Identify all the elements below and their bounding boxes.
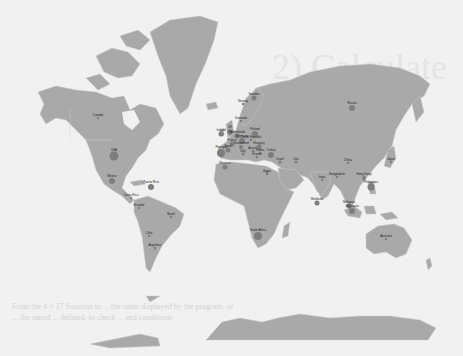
marker-label: Brazil (167, 212, 175, 216)
map-marker[interactable]: Puerto Rico (143, 180, 159, 190)
marker-label: Netherlands (229, 130, 246, 134)
marker-label: Russia (347, 101, 357, 105)
marker-label: Iran (293, 157, 299, 161)
land-iceland (206, 102, 218, 110)
marker-label: Puerto Rico (143, 180, 159, 184)
marker-label: Ireland (216, 128, 226, 132)
marker-label: Australia (380, 234, 392, 238)
marker-label: Canada (93, 113, 104, 117)
marker-bubble[interactable] (148, 235, 150, 237)
marker-bubble[interactable] (321, 179, 323, 181)
marker-bubble[interactable] (349, 105, 355, 111)
marker-label: South Africa (250, 228, 267, 232)
marker-bubble[interactable] (349, 208, 355, 214)
land-new-zealand (426, 258, 432, 270)
marker-label: Czech Republic (240, 135, 262, 139)
land-greenland (150, 16, 218, 114)
marker-bubble[interactable] (347, 162, 349, 164)
marker-label: Hungary (253, 141, 265, 145)
marker-bubble[interactable] (97, 117, 99, 119)
marker-label: Switzerland (233, 141, 249, 145)
marker-label: Poland (250, 127, 260, 131)
land-north-america (38, 86, 164, 204)
marker-label: Maldives (311, 197, 323, 201)
marker-label: Italy (240, 149, 246, 153)
marker-label: India (319, 175, 326, 179)
marker-bubble[interactable] (315, 201, 320, 206)
marker-label: Chile (146, 231, 153, 235)
marker-label: Philippines (364, 180, 379, 184)
marker-bubble[interactable] (154, 247, 156, 249)
marker-label: China (344, 158, 352, 162)
marker-label: Mexico (107, 174, 117, 178)
marker-bubble[interactable] (219, 132, 224, 137)
world-map[interactable]: CanadaUSAMexicoCosta RicaPuerto RicoEcua… (0, 0, 463, 356)
land-antarctica (90, 296, 436, 348)
marker-bubble[interactable] (242, 103, 244, 105)
marker-label: Sweden (249, 92, 260, 96)
marker-bubble[interactable] (130, 197, 132, 199)
marker-label: Greece (252, 152, 262, 156)
map-marker[interactable]: Philippines (364, 180, 379, 191)
map-marker[interactable]: Maldives (311, 197, 323, 206)
marker-bubble[interactable] (250, 139, 252, 141)
marker-bubble[interactable] (368, 184, 375, 191)
marker-label: Israel (276, 157, 284, 161)
marker-bubble[interactable] (385, 238, 387, 240)
marker-label: Japan (387, 157, 396, 161)
land-australia (366, 224, 412, 258)
marker-label: Costa Rica (124, 193, 139, 197)
marker-label: USA (111, 148, 117, 152)
marker-bubble[interactable] (252, 96, 257, 101)
marker-label: Malaysia (343, 200, 355, 204)
marker-bubble[interactable] (226, 148, 231, 153)
marker-bubble[interactable] (336, 176, 338, 178)
marker-bubble[interactable] (223, 165, 228, 170)
land-madagascar (282, 222, 290, 238)
marker-bubble[interactable] (242, 153, 245, 156)
marker-bubble[interactable] (138, 207, 140, 209)
marker-label: Singapore (345, 204, 359, 208)
marker-label: Norway (238, 99, 249, 103)
marker-bubble[interactable] (217, 149, 225, 157)
marker-bubble[interactable] (295, 161, 298, 164)
marker-bubble[interactable] (109, 178, 115, 184)
marker-label: France (227, 138, 237, 142)
marker-label: Hong Kong (356, 172, 371, 176)
marker-bubble[interactable] (148, 184, 154, 190)
map-marker[interactable]: Ireland (216, 128, 226, 137)
marker-bubble[interactable] (268, 152, 274, 158)
marker-bubble[interactable] (110, 152, 119, 161)
marker-bubble[interactable] (256, 156, 258, 158)
marker-label: Morocco (219, 161, 231, 165)
marker-bubble[interactable] (254, 232, 262, 240)
marker-bubble[interactable] (279, 161, 282, 164)
land-south-america (134, 196, 184, 272)
land-arctic-islands (86, 30, 150, 90)
marker-label: Bangladesh (329, 172, 345, 176)
marker-label: Egypt (263, 169, 271, 173)
marker-bubble[interactable] (170, 216, 172, 218)
marker-bubble[interactable] (266, 173, 268, 175)
marker-label: Argentina (149, 243, 162, 247)
marker-label: Turkey (266, 148, 276, 152)
marker-label: Ecuador (133, 203, 144, 207)
marker-bubble[interactable] (240, 120, 242, 122)
marker-label: Spain (224, 144, 232, 148)
marker-label: Denmark (235, 116, 248, 120)
marker-bubble[interactable] (390, 161, 392, 163)
